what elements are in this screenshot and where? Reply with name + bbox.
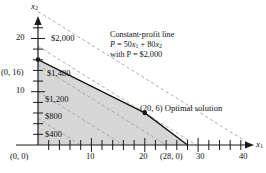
profit-label-1480: $1,480 xyxy=(47,69,70,78)
y-tick-label-10: 10 xyxy=(16,86,25,95)
x-tick-label-10: 10 xyxy=(86,152,95,161)
x-axis-label: x1 xyxy=(256,140,263,149)
constant-profit-annotation-line1: Constant-profit line xyxy=(110,30,174,40)
x-axis-arrow-icon xyxy=(245,141,254,148)
y-axis-label-sub: 2 xyxy=(35,5,38,11)
profit-label-2000: $2,000 xyxy=(51,34,74,43)
objective-eq-50: = 50 xyxy=(115,40,132,49)
point-label-28-0: (28, 0) xyxy=(160,152,183,161)
y-tick-label-20: 20 xyxy=(16,33,25,42)
profit-label-400: $400 xyxy=(45,130,62,139)
constant-profit-annotation: Constant-profit line P = 50x1 + 80x2 wit… xyxy=(110,30,174,60)
profit-label-800: $800 xyxy=(45,112,62,121)
y-axis-arrow-icon xyxy=(34,16,41,25)
point-marker-0-16 xyxy=(36,57,41,62)
x-tick-label-20: 20 xyxy=(139,152,148,161)
linear-programming-chart: x2 x1 20 10 10 20 30 40 (0, 16) (0, 0) (… xyxy=(0,0,266,173)
point-label-0-16: (0, 16) xyxy=(1,68,24,77)
x-axis-label-sub: 1 xyxy=(260,143,263,149)
constant-profit-annotation-line2: P = 50x1 + 80x2 xyxy=(110,40,174,50)
x-tick-label-40: 40 xyxy=(239,152,248,161)
y-axis-label: x2 xyxy=(31,2,38,11)
x-tick-label-30: 30 xyxy=(196,152,205,161)
objective-x2-sub: 2 xyxy=(159,43,162,49)
optimal-solution-annotation: (20, 6) Optimal solution xyxy=(140,104,222,113)
constant-profit-annotation-line3: with P = $2,000 xyxy=(110,50,174,60)
point-label-0-0: (0, 0) xyxy=(10,152,28,161)
objective-plus-80: + 80 xyxy=(139,40,156,49)
chart-canvas xyxy=(0,0,266,173)
profit-label-1200: $1,200 xyxy=(45,95,68,104)
